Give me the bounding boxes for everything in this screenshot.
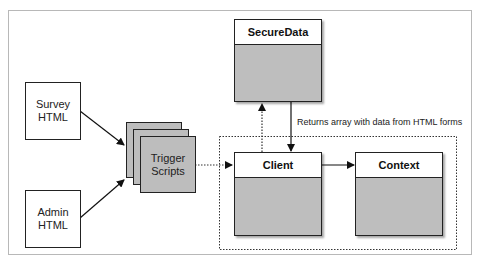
survey-html-node: SurveyHTML: [25, 82, 81, 140]
admin-html-line1: Admin: [37, 206, 68, 218]
client-class: Client: [234, 152, 322, 236]
securedata-title: SecureData: [235, 20, 321, 45]
context-title: Context: [356, 153, 442, 178]
admin-html-node: AdminHTML: [25, 190, 81, 248]
client-title: Client: [235, 153, 321, 178]
trigger-scripts-line1: Trigger: [151, 152, 185, 164]
trigger-scripts-line2: Scripts: [151, 165, 185, 177]
survey-html-line2: HTML: [38, 111, 68, 123]
arrow-survey-to-trigger: [80, 111, 124, 145]
admin-html-line2: HTML: [38, 219, 68, 231]
trigger-scripts-node: TriggerScripts: [140, 136, 196, 193]
securedata-class: SecureData: [234, 19, 322, 102]
returns-array-label: Returns array with data from HTML forms: [297, 117, 462, 127]
context-class: Context: [355, 152, 443, 236]
survey-html-line1: Survey: [36, 98, 70, 110]
arrow-admin-to-trigger: [80, 180, 124, 218]
